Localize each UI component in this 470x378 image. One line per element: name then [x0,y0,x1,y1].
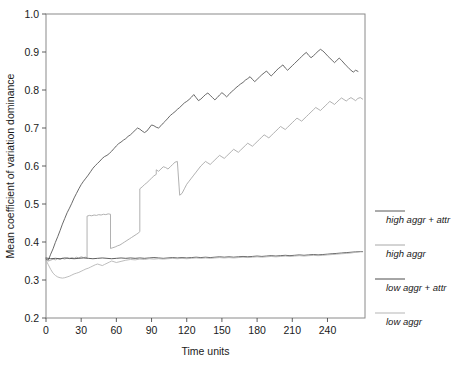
x-tick-label: 210 [284,324,302,336]
axis-tick-labels: 0.20.30.40.50.60.70.80.91.00306090120150… [24,8,336,336]
y-axis-title: Mean coefficient of variation dominance [4,73,16,258]
legend-label-2: low aggr + attr [386,282,447,293]
axis-ticks [42,14,327,322]
series-line-high-aggr [46,98,363,261]
x-tick-label: 180 [248,324,266,336]
y-tick-label: 0.3 [24,274,39,286]
x-axis-title: Time units [181,345,229,357]
series-lines [46,49,363,278]
y-tick-label: 0.7 [24,122,39,134]
plot-frame [46,14,365,318]
legend-label-3: low aggr [386,316,423,327]
y-tick-label: 0.6 [24,160,39,172]
chart-legend: high aggr + attrhigh aggrlow aggr + attr… [375,211,451,327]
series-line-low-aggr [46,252,363,278]
y-tick-label: 0.5 [24,198,39,210]
y-tick-label: 0.2 [24,312,39,324]
x-tick-label: 0 [43,324,49,336]
x-tick-label: 90 [146,324,158,336]
y-tick-label: 0.8 [24,84,39,96]
line-chart: 0.20.30.40.50.60.70.80.91.00306090120150… [0,0,470,378]
chart-figure: 0.20.30.40.50.60.70.80.91.00306090120150… [0,0,470,378]
series-line-high-aggr-attr [46,49,358,260]
x-tick-label: 60 [111,324,123,336]
x-tick-label: 120 [178,324,196,336]
x-tick-label: 150 [213,324,231,336]
legend-label-0: high aggr + attr [386,214,451,225]
legend-label-1: high aggr [386,248,426,259]
y-tick-label: 1.0 [24,8,39,20]
y-tick-label: 0.4 [24,236,39,248]
y-tick-label: 0.9 [24,46,39,58]
x-tick-label: 240 [319,324,337,336]
x-tick-label: 30 [75,324,87,336]
plot-border [46,14,365,318]
